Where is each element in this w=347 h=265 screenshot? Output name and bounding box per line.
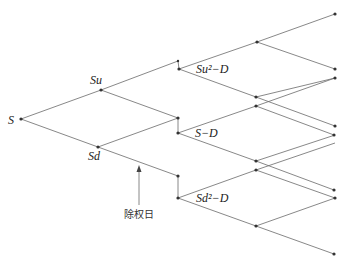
label-root: S [8, 113, 14, 127]
tree-nodes [19, 12, 336, 255]
label-ex-dividend-date: 除权日 [124, 208, 154, 220]
binomial-tree-diagram: S Su Sd Su²−D S−D Sd²−D 除权日 [0, 0, 347, 265]
label-down: Sd [88, 149, 101, 163]
label-downdown-minus-d: Sd²−D [196, 191, 229, 205]
ex-dividend-arrow [137, 165, 142, 205]
label-upup-minus-d: Su²−D [196, 62, 229, 76]
label-mid-minus-d: S−D [195, 126, 218, 140]
label-up: Su [90, 73, 102, 87]
